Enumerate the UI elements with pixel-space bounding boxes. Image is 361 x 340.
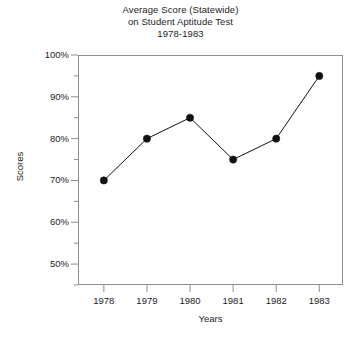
x-axis-tick-label: 1982 — [254, 295, 298, 306]
y-axis-tick-label: 50% — [29, 259, 69, 269]
chart-title: Average Score (Statewide) on Student Apt… — [0, 4, 361, 40]
x-axis-title: Years — [78, 313, 343, 324]
y-axis-tick-label-text: 60% — [29, 217, 69, 227]
y-axis-tick-label: 80% — [29, 134, 69, 144]
y-axis-tick-label-text: 70% — [29, 175, 69, 185]
x-axis-tick-label: 1983 — [297, 295, 341, 306]
y-axis-tick-label-text: 80% — [29, 134, 69, 144]
y-axis-tick-label: 70% — [29, 175, 69, 185]
y-axis-tick-label: 90% — [29, 92, 69, 102]
y-axis-title: Scores — [14, 137, 25, 197]
x-axis-tick-label: 1981 — [211, 295, 255, 306]
chart-title-line-2: on Student Aptitude Test — [0, 16, 361, 28]
y-axis-tick-label-text: 50% — [29, 259, 69, 269]
chart-container: Average Score (Statewide) on Student Apt… — [0, 0, 361, 340]
y-axis-tick-label: 60% — [29, 217, 69, 227]
x-axis-ticks — [104, 285, 319, 292]
plot-area — [78, 55, 343, 285]
chart-title-line-1: Average Score (Statewide) — [0, 4, 361, 16]
y-axis-ticks — [71, 55, 78, 285]
x-axis-tick-label: 1980 — [168, 295, 212, 306]
chart-title-line-3: 1978-1983 — [0, 28, 361, 40]
y-axis-tick-label-text: 90% — [29, 92, 69, 102]
y-axis-tick-label-text: 100% — [29, 50, 69, 60]
y-axis-tick-label: 100% — [29, 50, 69, 60]
x-axis-tick-label: 1978 — [82, 295, 126, 306]
x-axis-tick-label: 1979 — [125, 295, 169, 306]
